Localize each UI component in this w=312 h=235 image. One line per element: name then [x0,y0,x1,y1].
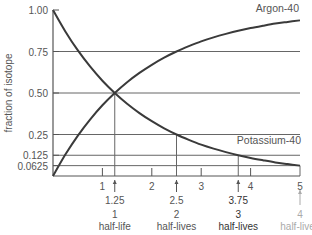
half-life-unit-label: half-life [99,221,132,232]
arrow-up-icon [175,180,179,184]
half-life-time-label: 2.5 [170,195,184,206]
y-axis-title: fraction of isotope [3,53,14,132]
series-label-argon-40: Argon-40 [256,2,299,14]
x-tick-label: 1 [100,181,106,192]
y-tick-label: 0.75 [29,47,49,58]
half-life-time-label: 3.75 [229,195,249,206]
x-tick-label: 2 [149,181,155,192]
half-life-time-label: 1.25 [105,195,125,206]
y-tick-label: 1.00 [29,5,49,16]
y-tick-label: 0.125 [23,150,48,161]
arrow-up-icon [236,180,240,184]
half-life-count-label: 1 [112,209,118,220]
half-life-markers: 1.251half-life2.52half-lives3.753half-li… [99,180,312,232]
half-life-unit-label: half-lives [219,221,258,232]
half-life-unit-label: half-lives [157,221,196,232]
x-tick-label: 3 [198,181,204,192]
arrow-up-icon [113,180,117,184]
guide-lines [53,52,300,177]
x-tick-label: 4 [248,181,254,192]
y-tick-label: 0.50 [29,88,49,99]
series-label-potassium-40: Potassium-40 [237,134,301,146]
decay-chart: 1.000.750.500.250.1250.0625 12345 1.251h… [0,0,312,235]
x-ticks: 12345 [100,168,304,192]
half-life-unit-label: half-lives [280,221,312,232]
half-life-count-label: 4 [297,209,303,220]
y-tick-label: 0.0625 [17,161,48,172]
y-tick-label: 0.25 [29,130,49,141]
half-life-count-label: 2 [174,209,180,220]
half-life-count-label: 3 [235,209,241,220]
